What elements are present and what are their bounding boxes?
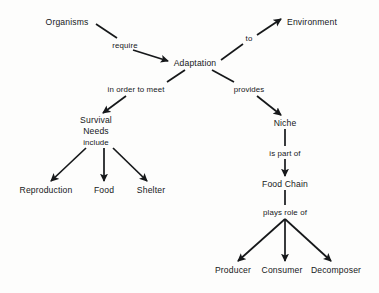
edge-adaptation-to-niche-2	[257, 96, 281, 115]
edge-needs-to-shelter	[113, 148, 147, 181]
edge-playsrole-to-producer	[238, 219, 285, 261]
edge-adaptation-to-niche-1	[212, 70, 234, 82]
node-shelter[interactable]: Shelter	[137, 185, 165, 196]
link-label-in-order-to-meet: in order to meet	[108, 85, 165, 95]
edge-adaptation-to-environment-2	[257, 19, 281, 35]
node-decomposer[interactable]: Decomposer	[311, 265, 361, 276]
node-consumer[interactable]: Consumer	[262, 265, 303, 276]
link-label-include: include	[83, 138, 109, 148]
link-label-to: to	[246, 34, 253, 44]
edge-organisms-to-adaptation-2	[133, 50, 168, 61]
edge-playsrole-to-decomposer	[285, 219, 331, 261]
node-needs[interactable]: Needs	[83, 126, 109, 137]
link-label-plays-role-of: plays role of	[263, 208, 307, 218]
edge-adaptation-to-survival-1	[167, 70, 185, 82]
concept-map-page: Organisms Adaptation Environment Surviva…	[0, 0, 379, 293]
node-survival[interactable]: Survival	[80, 115, 112, 126]
node-organisms[interactable]: Organisms	[46, 17, 89, 28]
node-food-chain[interactable]: Food Chain	[262, 179, 308, 190]
link-label-require: require	[112, 41, 137, 51]
edge-adaptation-to-survival-2	[103, 96, 126, 113]
node-niche[interactable]: Niche	[274, 118, 297, 129]
edge-organisms-to-adaptation-1	[96, 24, 117, 38]
node-environment[interactable]: Environment	[287, 17, 337, 28]
edge-needs-to-reproduction	[51, 148, 86, 181]
link-label-is-part-of: is part of	[269, 149, 300, 159]
link-label-provides: provides	[234, 85, 265, 95]
diagram-edges-layer	[0, 0, 379, 293]
node-producer[interactable]: Producer	[215, 265, 251, 276]
node-reproduction[interactable]: Reproduction	[20, 185, 73, 196]
node-food[interactable]: Food	[94, 185, 114, 196]
node-adaptation[interactable]: Adaptation	[174, 58, 217, 69]
edge-adaptation-to-environment-1	[221, 44, 243, 60]
